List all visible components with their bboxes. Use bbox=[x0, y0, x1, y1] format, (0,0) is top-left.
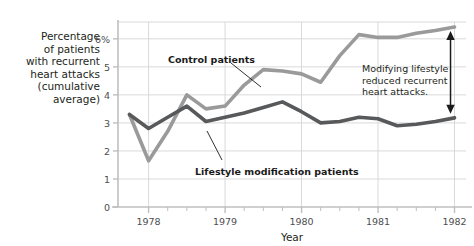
x-axis-tick-label: 1982 bbox=[442, 216, 466, 227]
y-axis-tick-label: 5 bbox=[84, 61, 110, 72]
x-axis-tick-label: 1981 bbox=[366, 216, 390, 227]
series-line-lifestyle bbox=[129, 102, 454, 129]
leader-line-lifestyle bbox=[207, 131, 222, 160]
x-axis-tick-label: 1978 bbox=[136, 216, 160, 227]
lifestyle-patients-label: Lifestyle modification patients bbox=[195, 166, 359, 177]
control-patients-label: Control patients bbox=[168, 54, 255, 65]
gap-arrow-head-up bbox=[446, 31, 454, 40]
x-axis-tick-label: 1980 bbox=[289, 216, 313, 227]
y-axis-tick-label: 6% bbox=[84, 33, 110, 44]
gap-annotation: Modifying lifestyle reduced recurrent he… bbox=[362, 63, 448, 98]
y-axis-tick-label: 3 bbox=[84, 117, 110, 128]
y-axis-tick-label: 2 bbox=[84, 145, 110, 156]
x-axis-tick-label: 1979 bbox=[213, 216, 237, 227]
chart-plot-area bbox=[0, 0, 474, 246]
x-axis-title: Year bbox=[281, 231, 303, 243]
y-axis-tick-label: 4 bbox=[84, 89, 110, 100]
chart-container: Percentage of patients with recurrent he… bbox=[0, 0, 474, 246]
gap-arrow-head-down bbox=[446, 105, 454, 114]
y-axis-tick-label: 0 bbox=[84, 202, 110, 213]
y-axis-tick-label: 1 bbox=[84, 173, 110, 184]
